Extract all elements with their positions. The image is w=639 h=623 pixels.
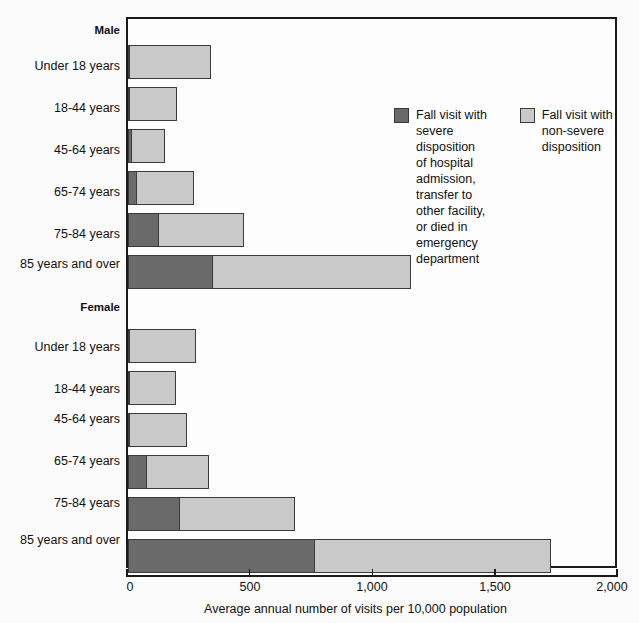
- axis-group-label-male: Male: [0, 25, 120, 37]
- bar-female-75-84-years: [128, 497, 295, 531]
- bar-segment-nonsevere: [179, 497, 294, 531]
- bar-female-18-44-years: [128, 371, 176, 405]
- bar-segment-nonsevere: [146, 455, 209, 489]
- x-ticklabel-1500: 1,500: [479, 580, 510, 594]
- x-tick-2000: [616, 569, 618, 577]
- x-tick-500: [249, 569, 251, 577]
- bar-female-under-18-years: [128, 329, 196, 363]
- axis-group-label-female: Female: [0, 302, 120, 314]
- axis-label-female-65-74: 65-74 years: [0, 455, 120, 468]
- bar-male-18-44-years: [128, 87, 177, 121]
- bar-segment-nonsevere: [129, 371, 177, 405]
- bar-male-65-74-years: [128, 171, 194, 205]
- bar-female-45-64-years: [128, 413, 187, 447]
- legend-entry-nonsevere: Fall visit with non-severe disposition: [520, 107, 615, 155]
- x-tick-1000: [372, 569, 374, 577]
- axis-label-male-75-84: 75-84 years: [0, 228, 120, 241]
- bar-segment-nonsevere: [314, 539, 551, 573]
- bar-segment-nonsevere: [212, 255, 411, 289]
- plot-area: Fall visit with severe disposition of ho…: [126, 17, 617, 568]
- stacked-bar-chart: Male Under 18 years 18-44 years 45-64 ye…: [0, 0, 639, 623]
- legend-label-nonsevere: Fall visit with non-severe disposition: [542, 107, 615, 155]
- bars-layer: [128, 19, 615, 566]
- x-tick-0: [126, 569, 128, 577]
- bar-segment-nonsevere: [129, 87, 178, 121]
- legend: Fall visit with severe disposition of ho…: [394, 107, 615, 267]
- x-ticklabel-2000: 2,000: [596, 580, 627, 594]
- bar-male-under-18-years: [128, 45, 211, 79]
- bar-segment-nonsevere: [129, 413, 186, 447]
- bar-female-85-years-and-over: [128, 539, 551, 573]
- axis-label-male-65-74: 65-74 years: [0, 186, 120, 199]
- legend-swatch-nonsevere-icon: [520, 108, 535, 123]
- axis-label-male-under-18: Under 18 years: [0, 60, 120, 73]
- axis-label-female-85-over: 85 years and over: [0, 534, 120, 547]
- bar-segment-severe: [128, 497, 181, 531]
- bar-segment-severe: [128, 539, 316, 573]
- axis-label-male-85-over: 85 years and over: [0, 258, 120, 271]
- bar-segment-severe: [128, 213, 160, 247]
- bar-segment-nonsevere: [131, 129, 164, 163]
- bar-male-45-64-years: [128, 129, 165, 163]
- bar-male-75-84-years: [128, 213, 244, 247]
- x-ticklabel-1000: 1,000: [356, 580, 387, 594]
- axis-label-female-under-18: Under 18 years: [0, 341, 120, 354]
- bar-segment-nonsevere: [136, 171, 194, 205]
- bar-male-85-years-and-over: [128, 255, 411, 289]
- bar-segment-nonsevere: [158, 213, 244, 247]
- x-ticklabel-0: 0: [127, 580, 134, 594]
- bar-segment-severe: [128, 255, 214, 289]
- bar-segment-nonsevere: [129, 45, 211, 79]
- bar-segment-severe: [128, 455, 148, 489]
- x-axis-title-wrapper: Average annual number of visits per 10,0…: [0, 602, 639, 616]
- legend-swatch-severe-icon: [394, 108, 409, 123]
- bar-segment-nonsevere: [129, 329, 197, 363]
- x-tick-1500: [494, 569, 496, 577]
- x-ticklabel-500: 500: [240, 580, 261, 594]
- x-axis-title: Average annual number of visits per 10,0…: [132, 602, 507, 616]
- axis-label-male-45-64: 45-64 years: [0, 144, 120, 157]
- axis-label-female-75-84: 75-84 years: [0, 497, 120, 510]
- bar-female-65-74-years: [128, 455, 209, 489]
- axis-label-female-18-44: 18-44 years: [0, 383, 120, 396]
- legend-label-severe: Fall visit with severe disposition of ho…: [416, 107, 492, 267]
- axis-label-female-45-64: 45-64 years: [0, 413, 120, 426]
- legend-entry-severe: Fall visit with severe disposition of ho…: [394, 107, 492, 267]
- axis-label-male-18-44: 18-44 years: [0, 102, 120, 115]
